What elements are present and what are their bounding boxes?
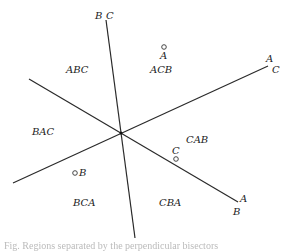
- point-c-marker: [174, 157, 179, 162]
- point-label-b: B: [79, 168, 86, 178]
- line-end-label-top-b: B: [95, 11, 102, 21]
- center-point: [120, 132, 123, 135]
- region-label-bca: BCA: [73, 198, 95, 208]
- region-label-cba: CBA: [159, 198, 181, 208]
- region-label-acb: ACB: [150, 65, 172, 75]
- point-b-marker: [73, 171, 78, 176]
- point-label-c: C: [172, 146, 180, 156]
- line-end-label-right-upper-c: C: [272, 65, 280, 75]
- line-end-label-right-lower-a: A: [240, 194, 247, 204]
- bisector-line-ac: [13, 66, 268, 183]
- line-end-label-right-upper-a: A: [266, 54, 273, 64]
- line-end-label-right-lower-b: B: [233, 207, 240, 217]
- region-label-cab: CAB: [186, 135, 208, 145]
- region-label-bac: BAC: [32, 127, 54, 137]
- point-label-a: A: [160, 51, 167, 61]
- region-label-abc: ABC: [66, 65, 88, 75]
- point-a-marker: [162, 45, 167, 50]
- figure-caption: Fig. Regions separated by the perpendicu…: [4, 240, 218, 251]
- line-end-label-top-c: C: [106, 11, 114, 21]
